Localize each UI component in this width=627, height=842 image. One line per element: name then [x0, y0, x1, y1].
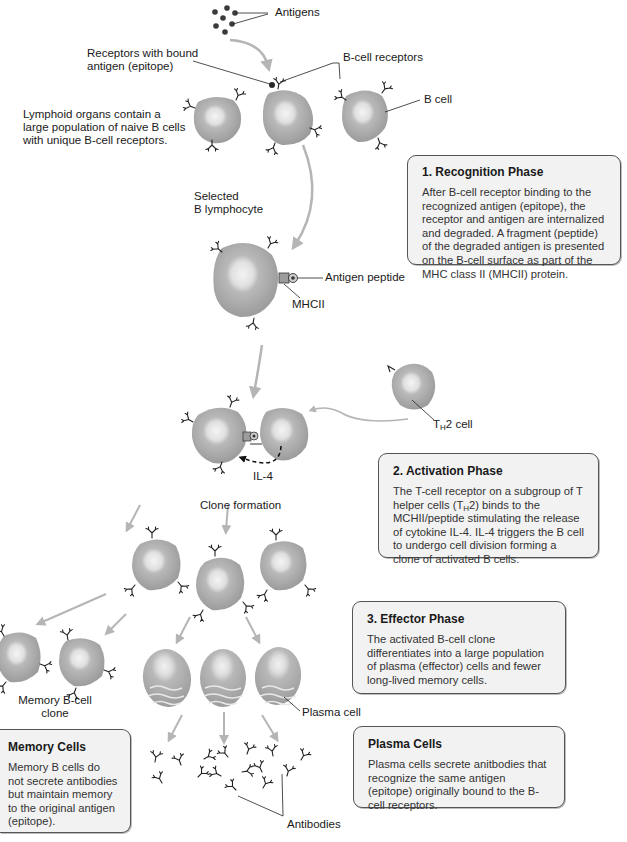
plasma-cells-title: Plasma Cells: [368, 737, 552, 751]
effector-phase-body: The activated B-cell clone differentiate…: [367, 633, 553, 687]
activation-phase-box: 2. Activation Phase The T-cell receptor …: [378, 453, 599, 558]
label-selected-2: B lymphocyte: [194, 203, 263, 217]
label-bcell-receptors: B-cell receptors: [343, 51, 423, 65]
activation-phase-body: The T-cell receptor on a subgroup of T h…: [393, 485, 586, 567]
label-antigens: Antigens: [275, 6, 320, 20]
recognition-phase-title: 1. Recognition Phase: [422, 165, 608, 179]
antibodies-scatter: [149, 742, 312, 795]
label-lymphoid-1: Lymphoid organs contain a: [23, 108, 161, 122]
clone-b-cell-3: [256, 529, 316, 603]
label-receptors-bound-2: antigen (epitope): [87, 60, 173, 74]
label-b-cell: B cell: [424, 93, 452, 107]
effector-phase-title: 3. Effector Phase: [367, 612, 553, 626]
flow-arrow: [295, 145, 312, 245]
label-clone-formation: Clone formation: [200, 499, 281, 513]
memory-cells-box: Memory Cells Memory B cells do not secre…: [0, 729, 131, 833]
mhcii-complex: [279, 273, 298, 283]
label-lymphoid-2: large population of naive B cells: [23, 121, 185, 135]
activated-b-cell: [180, 395, 246, 475]
memory-cells-body: Memory B cells do not secrete antibodies…: [8, 761, 118, 829]
selected-b-lymphocyte: [210, 235, 279, 329]
clone-b-cell-2: [192, 545, 254, 623]
antigens-cluster: [212, 5, 238, 35]
flow-arrow: [254, 345, 262, 393]
flow-arrow: [230, 40, 268, 66]
label-memory-clone-2: clone: [15, 707, 95, 721]
label-antibodies: Antibodies: [287, 818, 341, 832]
th2-cell: [388, 364, 435, 420]
plasma-cell-1: [139, 646, 195, 710]
plasma-cell-3: [252, 645, 304, 707]
plasma-cells-box: Plasma Cells Plasma cells secrete anitbo…: [353, 726, 565, 808]
label-lymphoid-3: with unique B-cell receptors.: [23, 134, 167, 148]
memory-b-cell-1: [0, 623, 52, 694]
label-mhcii: MHCII: [292, 298, 325, 312]
effector-phase-box: 3. Effector Phase The activated B-cell c…: [352, 601, 566, 694]
plasma-cells-body: Plasma cells secrete anitbodies that rec…: [368, 758, 552, 812]
b-t-synapse: [243, 432, 262, 444]
label-antigen-peptide: Antigen peptide: [325, 271, 405, 285]
plasma-cell-2: [200, 649, 246, 707]
label-il4: IL-4: [253, 470, 273, 484]
clone-b-cell-1: [123, 527, 189, 597]
label-selected-1: Selected: [194, 190, 239, 204]
th2-migration-arrow: [312, 408, 408, 421]
naive-b-cell-selected: [263, 77, 323, 155]
label-memory-clone-1: Memory B-cell: [15, 694, 95, 708]
bound-antigen: [269, 82, 275, 88]
recognition-phase-box: 1. Recognition Phase After B-cell recept…: [407, 155, 621, 265]
activated-th2-cell: [260, 408, 308, 461]
memory-cells-title: Memory Cells: [8, 740, 118, 754]
activation-phase-title: 2. Activation Phase: [393, 464, 586, 478]
naive-b-cell-3: [334, 81, 394, 151]
memory-b-cell-2: [59, 628, 116, 700]
label-th2-cell: TH2 cell: [433, 418, 473, 432]
label-plasma-cell: Plasma cell: [302, 706, 361, 720]
label-receptors-bound-1: Receptors with bound: [87, 47, 198, 61]
recognition-phase-body: After B-cell receptor binding to the rec…: [422, 186, 608, 281]
naive-b-cell-1: [183, 87, 246, 151]
antigens-pointer: [233, 13, 268, 24]
